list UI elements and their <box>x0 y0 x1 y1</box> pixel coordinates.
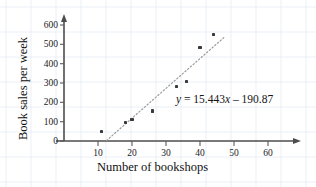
y-tick-label-500: 500 <box>36 39 58 49</box>
y-tick-label-300: 300 <box>36 78 58 88</box>
y-axis-arrow <box>61 14 67 22</box>
y-tick-label-200: 200 <box>36 97 58 107</box>
x-axis-arrow <box>293 138 301 144</box>
x-tick-label-40: 40 <box>190 148 210 158</box>
data-point <box>212 33 215 36</box>
data-point <box>124 121 127 124</box>
equation-intercept: 190.87 <box>242 93 274 105</box>
y-tick-label-400: 400 <box>36 59 58 69</box>
scatter-plot-figure: 0 100 200 300 400 500 600 10 20 30 40 50… <box>0 0 316 187</box>
y-axis-title: Book sales per week <box>16 37 31 140</box>
plot-area: 0 100 200 300 400 500 600 10 20 30 40 50… <box>0 0 316 187</box>
x-tick-label-10: 10 <box>88 148 108 158</box>
regression-equation-label: y = 15.443x – 190.87 <box>176 93 273 105</box>
x-tick-label-50: 50 <box>224 148 244 158</box>
y-tick-label-100: 100 <box>36 117 58 127</box>
data-point <box>198 46 201 49</box>
y-tick-label-600: 600 <box>36 20 58 30</box>
data-point <box>185 80 188 83</box>
data-point <box>100 130 103 133</box>
x-tick-label-20: 20 <box>122 148 142 158</box>
x-tick-label-30: 30 <box>156 148 176 158</box>
y-tick-label-0: 0 <box>44 136 58 146</box>
x-tick-label-60: 60 <box>258 148 278 158</box>
x-axis-title: Number of bookshops <box>97 160 208 175</box>
trendline <box>107 38 224 141</box>
equation-slope: 15.443 <box>193 93 225 105</box>
data-point <box>130 118 133 121</box>
data-point <box>151 109 154 112</box>
